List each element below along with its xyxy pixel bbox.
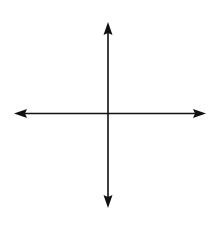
axes-diagram — [0, 0, 216, 226]
coordinate-plane — [0, 0, 216, 226]
